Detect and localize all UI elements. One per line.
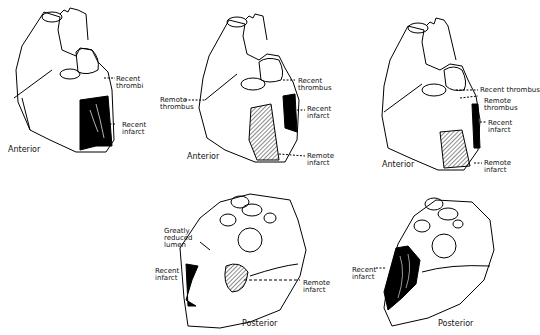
label-recent-thrombus: Recent thrombus [298, 78, 332, 92]
caption-anterior-2: Anterior [187, 152, 219, 161]
heart-posterior-drawing-1 [140, 180, 340, 335]
label-recent-infarct: Recent infarct [488, 120, 512, 134]
caption-posterior-1: Posterior [242, 319, 277, 328]
caption-anterior-3: Anterior [382, 160, 414, 169]
label-remote-thrombus: Remote thrombus [160, 97, 194, 111]
heart-diagram-anterior-3: Recent thrombus Remote thrombus Recent i… [360, 0, 536, 178]
caption-posterior-2: Posterior [438, 319, 473, 328]
label-remote-infarct: Remote infarct [484, 160, 511, 174]
heart-anterior-drawing-1 [0, 0, 180, 165]
label-recent-thrombi: Recent thrombi [116, 76, 143, 90]
heart-diagram-posterior-2: Recent infarct Posterior [340, 180, 536, 335]
label-recent-thrombus: Recent thrombus [480, 87, 540, 94]
label-remote-infarct: Remote infarct [307, 153, 334, 167]
label-remote-infarct: Remote infarct [303, 280, 330, 294]
label-remote-thrombus: Remote thrombus [484, 98, 518, 112]
label-greatly-reduced-lumen: Greatly reduced lumen [164, 228, 193, 249]
label-recent-infarct: Recent infarct [352, 267, 376, 281]
heart-diagram-posterior-1: Greatly reduced lumen Recent infarct Rem… [140, 180, 340, 335]
heart-diagram-anterior-2: Recent thrombus Remote thrombus Recent i… [155, 0, 355, 170]
heart-diagram-anterior-1: Recent thrombi Recent infarct Anterior [0, 0, 180, 165]
label-recent-infarct: Recent infarct [155, 268, 179, 282]
label-recent-infarct: Recent infarct [307, 106, 331, 120]
heart-posterior-drawing-2 [340, 180, 536, 335]
label-recent-infarct: Recent infarct [122, 122, 146, 136]
caption-anterior-1: Anterior [8, 145, 40, 154]
